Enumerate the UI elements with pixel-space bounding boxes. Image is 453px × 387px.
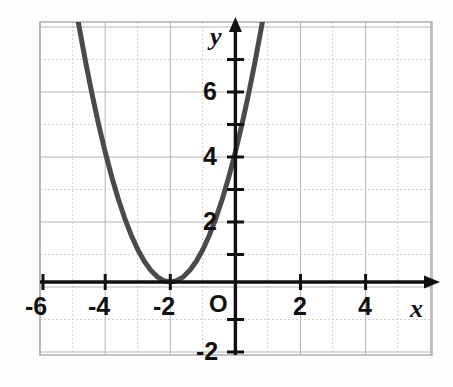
x-axis-label: x [410,296,423,322]
x-tick-label-pos4: 4 [358,294,372,319]
y-tick-label-neg2: -2 [196,339,218,364]
graph-figure: -6 -4 -2 2 4 6 4 2 -2 O y x [0,0,453,387]
y-axis-label: y [210,24,222,50]
origin-label: O [209,292,228,316]
x-tick-label-pos2: 2 [293,294,307,319]
coordinate-plane [0,0,453,387]
x-tick-label-neg2: -2 [153,294,175,319]
x-tick-label-neg4: -4 [88,294,110,319]
y-tick-label-4: 4 [203,144,217,169]
y-tick-label-6: 6 [203,79,217,104]
y-tick-label-2: 2 [203,209,217,234]
x-tick-label-neg6: -6 [25,294,47,319]
